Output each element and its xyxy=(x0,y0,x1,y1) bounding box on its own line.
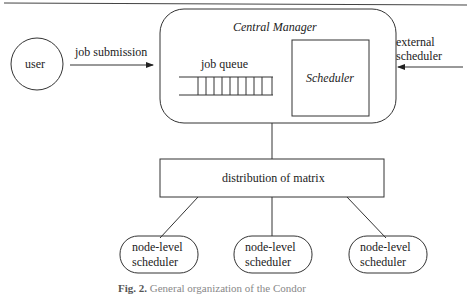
branch-line-left xyxy=(160,197,198,238)
node-scheduler-1-line1: node-level xyxy=(132,241,183,254)
job-queue-label: job queue xyxy=(201,58,248,71)
top-rule xyxy=(4,3,467,5)
caption-text: General organization of the Condor xyxy=(150,282,306,294)
node-scheduler-3-line2: scheduler xyxy=(360,256,406,269)
node-scheduler-2-line1: node-level xyxy=(245,241,296,254)
figure-caption: Fig. 2. General organization of the Cond… xyxy=(118,282,306,294)
user-label: user xyxy=(25,58,45,71)
node-scheduler-1-line2: scheduler xyxy=(132,256,178,269)
caption-prefix: Fig. 2. xyxy=(118,282,147,294)
external-scheduler-label: scheduler xyxy=(396,50,442,63)
distribution-label: distribution of matrix xyxy=(222,172,325,185)
scheduler-label: Scheduler xyxy=(306,72,354,85)
external-label: external xyxy=(396,36,435,49)
job-queue xyxy=(179,77,273,95)
job-submission-label: job submission xyxy=(75,46,147,59)
node-scheduler-3-line1: node-level xyxy=(360,241,411,254)
node-scheduler-2-line2: scheduler xyxy=(245,256,291,269)
central-manager-label: Central Manager xyxy=(233,21,317,34)
branch-line-right xyxy=(347,197,386,238)
